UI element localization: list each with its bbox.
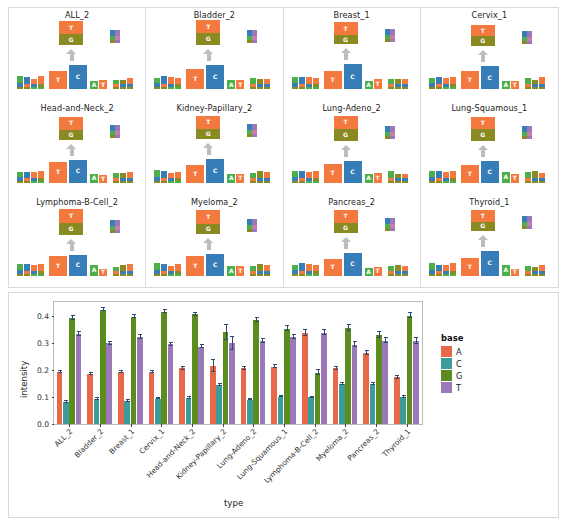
logo-stack	[525, 172, 531, 183]
up-arrow-icon	[478, 145, 489, 157]
error-bar-cap	[95, 399, 99, 400]
bar-G[interactable]	[376, 335, 382, 424]
legend-item-T[interactable]: T	[441, 382, 463, 393]
logo-glyph-G	[539, 274, 545, 276]
bar-A[interactable]	[363, 353, 369, 424]
error-bar-cap	[132, 317, 136, 318]
logo-stack	[127, 78, 133, 89]
logo-stack	[313, 171, 319, 183]
logo-glyph-C: C	[206, 254, 224, 276]
logo-stack	[443, 265, 449, 276]
error-bar-cap	[322, 329, 326, 330]
bar-C[interactable]	[339, 384, 345, 424]
bar-A[interactable]	[87, 374, 93, 424]
bar-C[interactable]	[94, 399, 100, 424]
bar-G[interactable]	[192, 314, 198, 424]
bar-A[interactable]	[210, 366, 216, 424]
error-bar-cap	[193, 315, 197, 316]
logo-stack	[250, 78, 256, 89]
logo-glyph-T: T	[511, 269, 519, 276]
x-tick-label: Breast_1	[107, 427, 136, 456]
bar-G[interactable]	[223, 332, 229, 424]
bar-A[interactable]	[394, 377, 400, 424]
logo-glyph-T: T	[196, 20, 220, 33]
bar-C[interactable]	[186, 398, 192, 424]
bar-A[interactable]	[118, 372, 124, 424]
logo-glyph-A	[175, 87, 181, 89]
bar-A[interactable]	[241, 368, 247, 424]
logo-stack	[388, 171, 394, 183]
logo-glyph-G	[395, 274, 401, 276]
logo-stack	[429, 78, 435, 89]
legend-item-C[interactable]: C	[441, 358, 463, 369]
logo-glyph-T	[539, 77, 545, 84]
logo-glyph-C: C	[481, 251, 499, 276]
bar-A[interactable]	[271, 367, 277, 424]
bar-G[interactable]	[131, 317, 137, 424]
logo-glyph-G	[24, 87, 30, 89]
bar-T[interactable]	[260, 341, 266, 424]
logo-glyph-G: G	[334, 223, 358, 233]
bar-C[interactable]	[400, 397, 406, 424]
logo-stack: TG	[334, 210, 358, 233]
bar-C[interactable]	[247, 400, 253, 424]
bar-T[interactable]	[168, 344, 174, 424]
logo-stack	[429, 263, 435, 276]
bar-A[interactable]	[57, 372, 63, 424]
logo-stack	[17, 76, 23, 89]
bar-T[interactable]	[382, 341, 388, 424]
logo-glyph-G: G	[196, 224, 220, 234]
bar-G[interactable]	[315, 373, 321, 425]
bar-T[interactable]	[229, 343, 235, 424]
bar-G[interactable]	[161, 312, 167, 425]
y-tick-label: 0.1	[37, 392, 49, 401]
bar-T[interactable]	[352, 345, 358, 424]
legend-item-G[interactable]: G	[441, 370, 463, 381]
logo-glyph-T: T	[236, 174, 244, 183]
logo-stack	[154, 170, 160, 183]
bar-T[interactable]	[321, 333, 327, 424]
bar-T[interactable]	[106, 343, 112, 424]
bar-G[interactable]	[253, 320, 259, 424]
bar-A[interactable]	[149, 372, 155, 424]
logo-stack: A	[90, 81, 98, 89]
logo-glyph-T	[306, 77, 312, 84]
logo-glyph-T	[527, 136, 532, 139]
bar-A[interactable]	[333, 368, 339, 424]
bar-C[interactable]	[63, 402, 69, 424]
logo-glyph-A	[443, 87, 449, 89]
x-tick-mark	[407, 424, 408, 427]
logo-glyph-G	[299, 87, 305, 89]
logo-cell-lung-adeno_2: Lung-Adeno_2TCATTG	[284, 101, 421, 194]
bar-G[interactable]	[345, 328, 351, 424]
bar-C[interactable]	[216, 385, 222, 424]
bar-T[interactable]	[76, 334, 82, 424]
bar-G[interactable]	[69, 318, 75, 424]
bar-C[interactable]	[308, 397, 314, 424]
bar-T[interactable]	[413, 341, 419, 424]
bar-C[interactable]	[278, 397, 284, 424]
logo-glyph-C	[436, 171, 442, 178]
base-intensity-barchart: intensity type 0.00.10.20.30.4ALL_2Bladd…	[8, 292, 559, 518]
bar-G[interactable]	[284, 329, 290, 424]
logo-stack	[113, 80, 119, 89]
legend-item-A[interactable]: A	[441, 346, 463, 357]
error-bar-cap	[58, 372, 62, 373]
logo-stack: TG	[59, 117, 83, 140]
bar-C[interactable]	[124, 401, 130, 424]
logo-glyph-T	[127, 264, 133, 271]
bar-C[interactable]	[155, 399, 161, 424]
bar-T[interactable]	[290, 337, 296, 424]
logo-stack: T	[324, 164, 342, 183]
bar-G[interactable]	[407, 316, 413, 424]
logo-cell-title: Thyroid_1	[421, 197, 558, 207]
logo-glyph-G: G	[196, 129, 220, 139]
bar-G[interactable]	[100, 310, 106, 424]
logo-glyph-G: G	[196, 33, 220, 45]
bar-T[interactable]	[137, 337, 143, 424]
bar-A[interactable]	[179, 368, 185, 424]
error-bar-cap	[242, 366, 246, 367]
bar-T[interactable]	[198, 347, 204, 424]
bar-A[interactable]	[302, 333, 308, 424]
bar-C[interactable]	[370, 384, 376, 424]
